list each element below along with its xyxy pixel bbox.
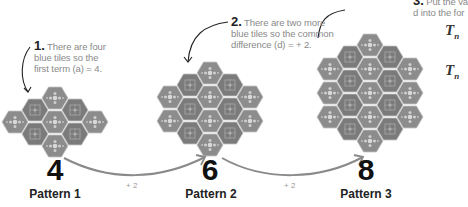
pattern-2-count: 6 [190, 155, 230, 185]
pattern-3-count: 8 [346, 155, 386, 185]
formula-line-2: Tn [445, 62, 459, 81]
note-3: 3. Put the va d into the for [413, 0, 468, 18]
note-2: 2. There are two more blue tiles so the … [231, 16, 334, 50]
formula-line-1: Tn [445, 22, 459, 41]
pattern-1-tiles [2, 87, 108, 157]
step-1-label: + 2 [126, 181, 137, 190]
pattern-1-count: 4 [35, 155, 75, 185]
pattern-1-label: Pattern 1 [20, 187, 90, 201]
pattern-3-tiles [317, 34, 423, 152]
pattern-2-label: Pattern 2 [176, 187, 246, 201]
pattern-2-tiles [157, 62, 263, 156]
note-1: 1. There are four blue tiles so the firs… [34, 40, 106, 74]
pattern-3-label: Pattern 3 [331, 187, 401, 201]
step-2-label: + 2 [284, 181, 295, 190]
